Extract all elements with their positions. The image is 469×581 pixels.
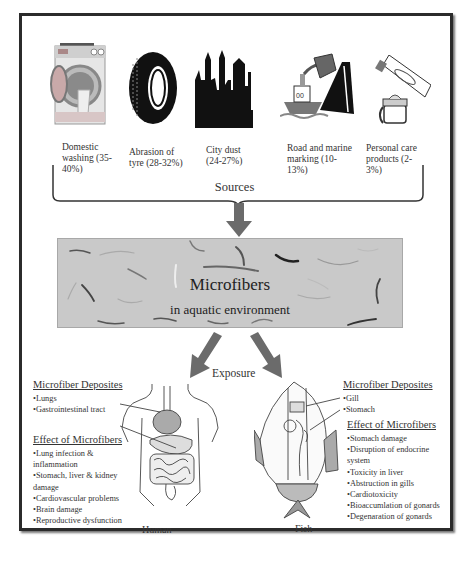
ship-and-road-icon: 00	[280, 52, 354, 122]
list-item: •Bioaccumlation of gonards	[347, 500, 440, 511]
list-item: •Stomach, liver & kidney	[33, 470, 122, 481]
list-item: •Abstruction in gills	[347, 478, 440, 489]
fish-caption: Fish	[295, 523, 312, 534]
down-arrow-icon	[226, 203, 252, 237]
list-item: system	[347, 455, 440, 466]
list-item: •Cardiovascular problems	[33, 493, 122, 504]
human-effects-title: Effect of Microfibers	[33, 434, 122, 445]
human-deposits-title: Microfiber Deposites	[33, 379, 123, 390]
human-caption: Human	[142, 524, 171, 535]
environment-title: Microfibers	[58, 275, 402, 295]
list-item: •Toxicity in liver	[347, 467, 440, 478]
list-item: •Lung infection &	[33, 448, 122, 459]
list-item: •Stomach damage	[347, 433, 440, 444]
list-item: •Brain damage	[33, 504, 122, 515]
human-deposits-list: •Lungs •Gastrointestinal tract	[33, 393, 105, 415]
exposure-label: Exposure	[212, 367, 255, 379]
fish-deposits-title: Microfiber Deposites	[343, 379, 433, 390]
tyre-icon	[127, 50, 179, 126]
aquatic-environment-box: Microfibers in aquatic environment	[57, 238, 403, 328]
list-item: damage	[33, 482, 122, 493]
sources-label: Sources	[0, 180, 469, 195]
fish-effects-list: •Stomach damage •Disruption of endocrine…	[347, 433, 440, 523]
list-item: •Degenaration of gonards	[347, 511, 440, 522]
list-item: •Disruption of endocrine	[347, 444, 440, 455]
list-item: •Stomach	[343, 404, 375, 415]
list-item: •Lungs	[33, 393, 105, 404]
list-item: •Cardiotoxicity	[347, 489, 440, 500]
toothpaste-cream-icon	[369, 55, 431, 125]
source-label-city-dust: City dust (24-27%)	[206, 145, 242, 167]
list-item: •Gastrointestinal tract	[33, 404, 105, 415]
human-effects-list: •Lung infection & inflammation •Stomach,…	[33, 448, 122, 526]
city-skyline-icon	[195, 50, 253, 128]
fish-effects-title: Effect of Microfibers	[347, 419, 436, 430]
list-item: inflammation	[33, 459, 122, 470]
fish-anatomy-icon	[254, 380, 344, 520]
list-item: •Reproductive dysfunction	[33, 515, 122, 526]
washing-machine-icon	[50, 42, 110, 126]
list-item: •Gill	[343, 393, 375, 404]
svg-text:00: 00	[296, 92, 304, 99]
fish-deposits-list: •Gill •Stomach	[343, 393, 375, 415]
environment-subtitle: in aquatic environment	[58, 302, 402, 318]
human-anatomy-icon	[120, 382, 220, 510]
